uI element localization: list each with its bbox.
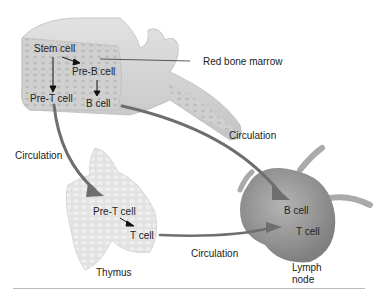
label-stem-cell: Stem cell (34, 43, 75, 54)
bone-illustration (22, 18, 242, 140)
label-lymph: Lymph (292, 262, 322, 273)
label-circulation-right: Circulation (229, 130, 276, 141)
label-circulation-left: Circulation (15, 150, 62, 161)
label-t-cell-node: T cell (296, 226, 320, 237)
label-b-cell-node: B cell (284, 205, 308, 216)
label-node: node (292, 274, 314, 285)
label-pre-t-cell-thymus: Pre-T cell (93, 206, 136, 217)
label-pre-t-cell-marrow: Pre-T cell (30, 93, 73, 104)
label-circulation-bottom: Circulation (191, 248, 238, 259)
label-b-cell-marrow: B cell (86, 98, 110, 109)
label-pre-b-cell: Pre-B cell (72, 66, 115, 77)
label-thymus: Thymus (96, 267, 132, 278)
label-red-bone-marrow: Red bone marrow (203, 56, 282, 67)
label-t-cell-thymus: T cell (130, 230, 154, 241)
bottom-divider (13, 288, 365, 289)
